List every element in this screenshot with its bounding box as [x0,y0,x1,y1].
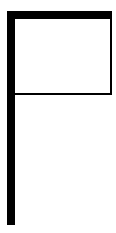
flag-cloth [15,19,112,95]
flag-top-edge [7,11,112,19]
flag-pole [7,11,15,225]
